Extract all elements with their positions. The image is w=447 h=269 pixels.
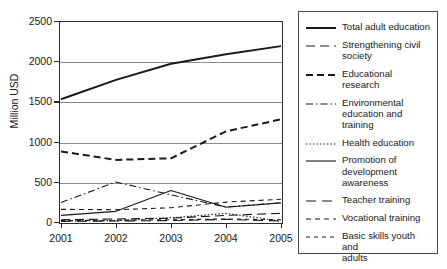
y-tick-label: 1500 [29,96,52,106]
legend-label: Teacher training [342,194,410,205]
y-tick-label: 0 [46,217,52,227]
y-tick-label: 1000 [29,137,52,147]
legend-item[interactable]: Health education [306,137,431,148]
legend-line-swatch-icon [306,98,336,109]
chart-legend: Total adult educationStrengthening civil… [298,11,438,254]
legend-label: Environmental education and training [342,97,431,131]
legend-label: Health education [342,137,414,148]
legend-label: Promotion of development awareness [342,154,431,188]
legend-line-swatch-icon [306,155,336,166]
x-axis: 20012002200320042005 [59,224,283,254]
legend-item[interactable]: Teacher training [306,194,431,205]
legend-line-swatch-icon [306,40,336,51]
legend-item[interactable]: Vocational training [306,212,431,223]
legend-item[interactable]: Promotion of development awareness [306,154,431,188]
x-tick-label: 2001 [49,232,72,244]
plot-area [59,21,283,224]
legend-line-swatch-icon [306,231,336,242]
x-tick-mark [116,224,117,228]
y-tick-label: 500 [34,177,52,187]
legend-line-swatch-icon [306,69,336,80]
x-tick-mark [226,224,227,228]
x-tick-mark [171,224,172,228]
y-axis-title: Million USD [8,56,20,146]
series-line [61,199,281,209]
legend-item[interactable]: Basic skills youth and adults [306,230,431,264]
x-tick-label: 2004 [214,232,237,244]
legend-item[interactable]: Strengthening civil society [306,39,431,61]
series-line [61,119,281,160]
legend-label: Strengthening civil society [342,39,420,61]
x-tick-label: 2005 [269,232,292,244]
legend-line-swatch-icon [306,138,336,149]
legend-item[interactable]: Educational research [306,68,431,90]
x-tick-mark [61,224,62,228]
y-tick-label: 2500 [29,16,52,26]
legend-label: Basic skills youth and adults [342,230,431,264]
legend-line-swatch-icon [306,22,336,33]
legend-line-swatch-icon [306,195,336,206]
series-line [61,182,281,207]
x-tick-label: 2003 [159,232,182,244]
y-axis: Million USD 05001000150020002500 [0,0,59,225]
legend-item[interactable]: Environmental education and training [306,97,431,131]
chart-figure: Million USD 05001000150020002500 2001200… [0,0,447,269]
legend-label: Total adult education [342,21,430,32]
series-lines [60,22,282,223]
legend-label: Educational research [342,68,431,90]
legend-line-swatch-icon [306,213,336,224]
series-line [61,46,281,99]
legend-item[interactable]: Total adult education [306,21,431,32]
y-tick-label: 2000 [29,56,52,66]
x-tick-mark [281,224,282,228]
series-line [61,190,281,215]
x-tick-label: 2002 [104,232,127,244]
legend-label: Vocational training [342,212,420,223]
